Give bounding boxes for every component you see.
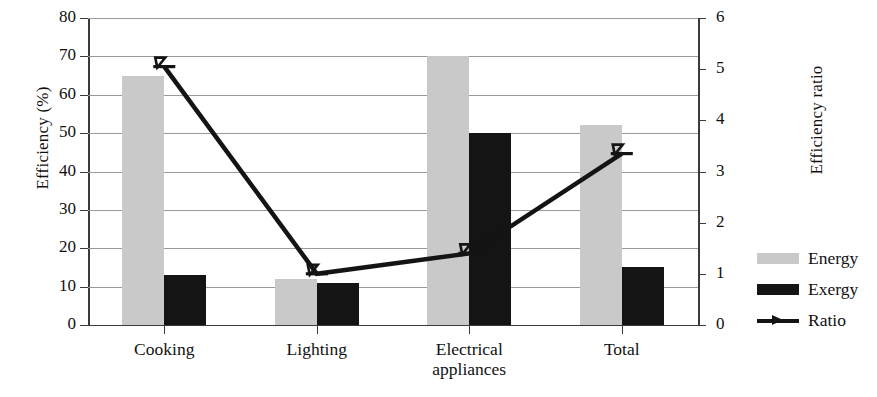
legend-item-ratio: Ratio	[757, 305, 877, 336]
chart-legend: Energy Exergy Ratio	[757, 243, 877, 336]
ratio-polyline	[164, 67, 622, 274]
y-axis-left-tick-label: 50	[36, 122, 76, 142]
x-axis-line	[88, 325, 700, 326]
y-axis-left-tick-label: 20	[36, 237, 76, 257]
y-axis-left-tick	[80, 248, 88, 249]
x-axis-tick	[469, 325, 470, 334]
exergy-swatch-icon	[757, 284, 799, 295]
y-axis-right-tick-label: 0	[716, 314, 756, 334]
y-axis-left-tick-label: 0	[36, 314, 76, 334]
y-axis-right-tick-label: 1	[716, 263, 756, 283]
legend-item-energy: Energy	[757, 243, 877, 274]
y-axis-left-tick-label: 80	[36, 7, 76, 27]
y-axis-right-tick-label: 6	[716, 7, 756, 27]
y-axis-left-tick	[80, 56, 88, 57]
ratio-line-marker-icon	[757, 315, 799, 326]
y-axis-left-tick-label: 10	[36, 276, 76, 296]
legend-label-energy: Energy	[808, 248, 858, 269]
ratio-line-series	[88, 18, 698, 325]
y-axis-right-tick-label: 3	[716, 161, 756, 181]
y-axis-left-tick	[80, 210, 88, 211]
y-axis-left-tick-label: 40	[36, 161, 76, 181]
chart-figure: Efficiency (%) Efficiency ratio 01020304…	[0, 0, 877, 397]
y-axis-left-tick	[80, 325, 88, 326]
y-axis-left-tick	[80, 95, 88, 96]
x-axis-category-label: Lighting	[237, 340, 397, 360]
energy-swatch-icon	[757, 253, 799, 264]
y-axis-left-tick-label: 60	[36, 84, 76, 104]
y-axis-right-tick-label: 4	[716, 109, 756, 129]
y-axis-left-tick	[80, 133, 88, 134]
legend-label-exergy: Exergy	[808, 279, 858, 300]
x-axis-category-label: Cooking	[84, 340, 244, 360]
x-axis-tick	[622, 325, 623, 334]
y-axis-left-tick-label: 70	[36, 45, 76, 65]
y-axis-left-tick	[80, 172, 88, 173]
y-axis-right-tick-label: 5	[716, 58, 756, 78]
legend-label-ratio: Ratio	[808, 310, 846, 331]
x-axis-category-label: Total	[542, 340, 702, 360]
ratio-marker	[611, 145, 633, 156]
y-axis-right-line	[698, 18, 700, 325]
y-axis-left-tick-label: 30	[36, 199, 76, 219]
y-axis-right-title: Efficiency ratio	[807, 25, 827, 215]
plot-area: 01020304050607080 0123456	[88, 18, 698, 325]
y-axis-left-tick	[80, 18, 88, 19]
x-axis-tick	[317, 325, 318, 334]
y-axis-right-tick-label: 2	[716, 212, 756, 232]
legend-item-exergy: Exergy	[757, 274, 877, 305]
ratio-marker	[153, 58, 175, 69]
y-axis-left-tick	[80, 287, 88, 288]
x-axis-category-label: Electricalappliances	[389, 340, 549, 379]
x-axis-tick	[164, 325, 165, 334]
